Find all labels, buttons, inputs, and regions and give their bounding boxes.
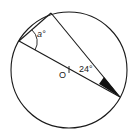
angle-24-label: 24° (79, 64, 93, 74)
chord-ab (19, 13, 51, 41)
angle-a-label: a° (37, 29, 46, 39)
circle-diagram: a° 24° O (0, 0, 133, 133)
diameter-bc (19, 41, 120, 97)
center-label: O (59, 70, 66, 80)
